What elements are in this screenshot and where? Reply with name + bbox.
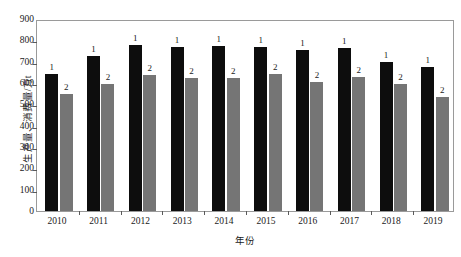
bar-group: 12 xyxy=(371,21,413,211)
bar-series2 xyxy=(185,78,198,211)
bar-data-label: 1 xyxy=(83,45,103,54)
y-tick-label: 700 xyxy=(8,58,34,68)
y-tick-label: 0 xyxy=(8,207,34,217)
bar-group: 12 xyxy=(204,21,246,211)
bar-data-label: 1 xyxy=(209,35,229,44)
y-tick-label: 600 xyxy=(8,79,34,89)
y-tick-label: 900 xyxy=(8,15,34,25)
x-tick-mark xyxy=(413,211,414,215)
bar-group: 12 xyxy=(121,21,163,211)
bar-series2 xyxy=(352,77,365,211)
bar-data-label: 1 xyxy=(251,36,271,45)
y-tick-label: 400 xyxy=(8,122,34,132)
bar-series2 xyxy=(269,74,282,211)
x-tick-mark xyxy=(288,211,289,215)
x-tick-mark xyxy=(246,211,247,215)
bar-series2 xyxy=(143,75,156,211)
x-tick-label: 2012 xyxy=(119,216,163,226)
bar-series1 xyxy=(45,74,58,211)
x-tick-label: 2019 xyxy=(411,216,455,226)
y-tick-label: 800 xyxy=(8,37,34,47)
bar-data-label: 2 xyxy=(307,71,327,80)
x-tick-mark xyxy=(371,211,372,215)
bar-series2 xyxy=(310,82,323,211)
x-tick-label: 2018 xyxy=(369,216,413,226)
y-axis-tick-labels: 0100200300400500600700800900 xyxy=(6,0,34,257)
bar-data-label: 1 xyxy=(292,39,312,48)
bar-data-label: 2 xyxy=(182,67,202,76)
bar-series2 xyxy=(60,94,73,211)
bar-group: 12 xyxy=(330,21,372,211)
bar-series2 xyxy=(436,97,449,211)
x-tick-label: 2014 xyxy=(202,216,246,226)
bar-data-label: 2 xyxy=(223,67,243,76)
x-tick-label: 2016 xyxy=(286,216,330,226)
x-tick-label: 2017 xyxy=(328,216,372,226)
x-tick-label: 2011 xyxy=(77,216,121,226)
bar-group: 12 xyxy=(37,21,79,211)
bar-group: 12 xyxy=(413,21,455,211)
y-tick-label: 300 xyxy=(8,143,34,153)
x-tick-label: 2015 xyxy=(244,216,288,226)
x-tick-mark xyxy=(330,211,331,215)
bar-data-label: 2 xyxy=(56,83,76,92)
bar-chart: 生产量、消费量/万t 0100200300400500600700800900 … xyxy=(0,0,461,257)
bar-group: 12 xyxy=(246,21,288,211)
y-tick-label: 100 xyxy=(8,186,34,196)
x-axis-title: 年份 xyxy=(36,233,454,247)
bar-data-label: 1 xyxy=(167,36,187,45)
bar-data-label: 2 xyxy=(98,73,118,82)
bar-group: 12 xyxy=(162,21,204,211)
bar-data-label: 2 xyxy=(349,66,369,75)
bar-series2 xyxy=(394,84,407,211)
bar-series2 xyxy=(101,84,114,211)
x-tick-mark xyxy=(121,211,122,215)
bar-group: 12 xyxy=(288,21,330,211)
bar-series1 xyxy=(380,62,393,211)
x-tick-mark xyxy=(204,211,205,215)
bar-data-label: 1 xyxy=(418,56,438,65)
y-tick-label: 500 xyxy=(8,101,34,111)
bar-series2 xyxy=(227,78,240,211)
plot-area: 12121212121212121212 xyxy=(36,20,454,212)
x-tick-label: 2010 xyxy=(35,216,79,226)
x-tick-mark xyxy=(79,211,80,215)
bar-data-label: 1 xyxy=(334,37,354,46)
bar-group: 12 xyxy=(79,21,121,211)
bar-data-label: 1 xyxy=(42,63,62,72)
bar-data-label: 2 xyxy=(265,63,285,72)
bar-data-label: 2 xyxy=(432,86,452,95)
bar-data-label: 2 xyxy=(140,64,160,73)
x-tick-label: 2013 xyxy=(160,216,204,226)
y-tick-label: 200 xyxy=(8,165,34,175)
bar-data-label: 1 xyxy=(125,34,145,43)
bar-data-label: 2 xyxy=(391,73,411,82)
x-tick-mark xyxy=(162,211,163,215)
bar-data-label: 1 xyxy=(376,51,396,60)
